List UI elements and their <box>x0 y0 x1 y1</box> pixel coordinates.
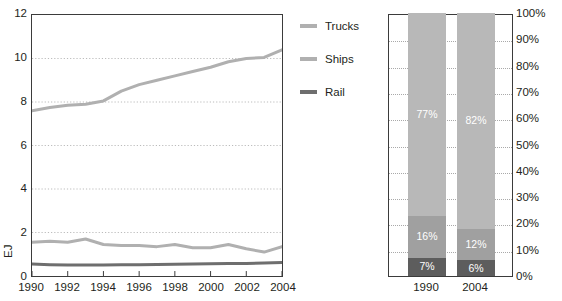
two-panel-freight-chart: 121086420 199019921994199619982000200220… <box>0 0 562 301</box>
bar-segment-ships[interactable]: 16% <box>408 216 446 258</box>
line-chart-xtick-marks <box>32 271 282 276</box>
bar-segment-rail[interactable]: 6% <box>457 260 495 276</box>
stacked-bar-2004[interactable]: 6%12%82% <box>457 15 495 276</box>
bar-segment-label: 16% <box>416 231 437 242</box>
bar-segment-trucks[interactable]: 82% <box>457 13 495 229</box>
legend-swatch-icon <box>300 57 317 61</box>
bar-segment-label: 82% <box>465 115 486 126</box>
x-tick-label: 1996 <box>126 281 152 293</box>
line-chart-gridlines <box>32 59 282 233</box>
legend-swatch-icon <box>300 90 317 94</box>
bar-y-tick-label: 10% <box>516 245 539 257</box>
line-chart-svg <box>32 15 282 276</box>
x-tick-label: 2002 <box>234 281 260 293</box>
line-chart-panel: 121086420 199019921994199619982000200220… <box>0 0 310 301</box>
bar-segment-ships[interactable]: 12% <box>457 229 495 261</box>
bar-segment-label: 6% <box>468 263 483 274</box>
bar-y-tick-label: 80% <box>516 61 539 73</box>
y-axis-unit-label: EJ <box>2 245 14 258</box>
bar-y-tick-label: 50% <box>516 140 539 152</box>
line-chart-x-axis: 19901992199419961998200020022004 <box>31 281 283 299</box>
legend-item-ships[interactable]: Ships <box>300 52 354 66</box>
bar-y-tick-label: 40% <box>516 166 539 178</box>
bar-y-tick-label: 60% <box>516 113 539 125</box>
stacked-bar-chart-panel: 7%16%77%6%12%82% 100%90%80%70%60%50%40%3… <box>388 0 562 301</box>
line-chart-plot-area <box>31 14 283 277</box>
legend-item-trucks[interactable]: Trucks <box>300 19 359 33</box>
bar-segment-trucks[interactable]: 77% <box>408 13 446 216</box>
bar-x-tick-label: 2004 <box>462 281 488 293</box>
bar-segment-label: 7% <box>419 261 434 272</box>
bar-chart-plot-area: 7%16%77%6%12%82% <box>388 14 513 277</box>
y-tick-label: 4 <box>21 184 27 196</box>
legend-label: Rail <box>325 86 345 98</box>
series-line-trucks <box>32 50 282 111</box>
bar-x-tick-label: 1990 <box>413 281 439 293</box>
bar-y-tick-label: 90% <box>516 35 539 47</box>
x-tick-label: 1992 <box>54 281 80 293</box>
x-tick-label: 1998 <box>162 281 188 293</box>
legend-label: Trucks <box>325 20 359 32</box>
stacked-bar-1990[interactable]: 7%16%77% <box>408 15 446 276</box>
bar-y-tick-label: 100% <box>516 8 545 20</box>
x-tick-label: 2004 <box>270 281 296 293</box>
bar-y-tick-label: 30% <box>516 192 539 204</box>
series-line-rail <box>32 263 282 266</box>
bar-segment-rail[interactable]: 7% <box>408 258 446 276</box>
y-tick-label: 2 <box>21 227 27 239</box>
x-tick-label: 1994 <box>90 281 116 293</box>
bar-chart-x-axis: 19902004 <box>388 281 513 299</box>
legend-swatch-icon <box>300 24 317 28</box>
bar-segment-label: 77% <box>416 109 437 120</box>
bar-segment-label: 12% <box>465 239 486 250</box>
legend-item-rail[interactable]: Rail <box>300 85 345 99</box>
x-tick-label: 2000 <box>198 281 224 293</box>
line-chart-y-axis: 121086420 <box>0 14 27 277</box>
chart-legend: TrucksShipsRail <box>300 14 390 104</box>
y-tick-label: 6 <box>21 140 27 152</box>
bar-y-tick-label: 70% <box>516 87 539 99</box>
series-line-ships <box>32 239 282 252</box>
x-tick-label: 1990 <box>18 281 44 293</box>
y-tick-label: 8 <box>21 96 27 108</box>
bar-y-tick-label: 20% <box>516 219 539 231</box>
y-tick-label: 10 <box>14 52 27 64</box>
legend-label: Ships <box>325 53 354 65</box>
bar-y-tick-label: 0% <box>516 271 533 283</box>
y-tick-label: 12 <box>14 8 27 20</box>
bar-chart-y-axis: 100%90%80%70%60%50%40%30%20%10%0% <box>516 14 562 277</box>
